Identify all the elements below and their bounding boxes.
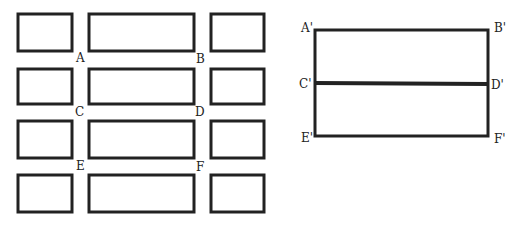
right-label: C' bbox=[299, 77, 311, 91]
block-r4-c2 bbox=[89, 175, 194, 212]
left-label: B bbox=[196, 52, 205, 66]
block-r1-c3 bbox=[211, 14, 264, 51]
right-label: A' bbox=[300, 21, 313, 35]
block-r2-c1 bbox=[18, 69, 72, 104]
right-label: B' bbox=[494, 21, 506, 35]
right-label: D' bbox=[491, 78, 504, 92]
diagram-canvas: ABCDEF A'B'C'D'E'F' bbox=[0, 0, 520, 227]
block-r2-c3 bbox=[211, 69, 264, 104]
left-label: D bbox=[195, 105, 205, 119]
right-label: E' bbox=[301, 131, 313, 145]
right-rectangle-diagram bbox=[315, 30, 488, 136]
left-label: F bbox=[196, 160, 204, 174]
right-label: F' bbox=[494, 132, 506, 146]
block-r4-c3 bbox=[211, 175, 264, 212]
block-r3-c2 bbox=[89, 121, 194, 158]
block-r1-c2 bbox=[89, 14, 194, 51]
left-block-grid bbox=[18, 14, 264, 212]
block-r3-c1 bbox=[18, 121, 72, 158]
left-label: E bbox=[76, 159, 85, 173]
block-r2-c2 bbox=[89, 69, 194, 104]
block-r4-c1 bbox=[18, 175, 72, 212]
left-label: A bbox=[75, 51, 85, 65]
divider-line-cd bbox=[315, 83, 488, 84]
left-label: C bbox=[75, 105, 84, 119]
block-r3-c3 bbox=[211, 121, 264, 158]
block-r1-c1 bbox=[18, 14, 72, 51]
